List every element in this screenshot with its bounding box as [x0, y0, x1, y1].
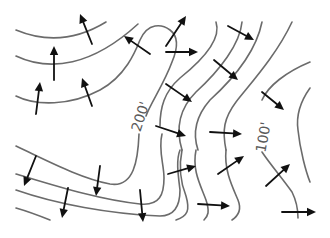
contour-line	[195, 22, 262, 150]
contour-line	[195, 150, 208, 220]
flow-arrow-icon	[218, 156, 244, 174]
flow-arrow-icon	[198, 201, 230, 209]
contour-line	[298, 88, 311, 182]
flow-arrow-icon	[156, 126, 186, 137]
contour-line	[262, 62, 310, 100]
elevation-label-200: 200'	[128, 99, 153, 133]
flow-arrow-icon	[138, 190, 146, 222]
flow-arrow-icon	[23, 156, 36, 186]
contour-line	[16, 134, 164, 204]
flow-arrow-icon	[282, 208, 316, 216]
flow-arrow-icon	[124, 36, 150, 54]
contour-line	[16, 24, 138, 64]
flow-arrow-icon	[262, 92, 284, 110]
contour-line	[16, 22, 106, 38]
contour-line	[16, 208, 50, 220]
flow-arrow-icon	[166, 48, 198, 56]
flow-arrow-icon	[210, 129, 242, 137]
flow-arrow-icon	[81, 78, 92, 106]
elevation-labels: 200' 100'	[128, 99, 274, 153]
flow-arrow-icon	[50, 46, 58, 80]
contour-lines	[16, 22, 310, 220]
flow-arrow-icon	[79, 14, 92, 44]
flow-arrow-icon	[266, 164, 290, 186]
flow-arrow-icon	[168, 164, 196, 174]
contour-line	[160, 22, 217, 126]
contour-map: 200' 100'	[0, 0, 330, 238]
flow-arrows	[23, 14, 316, 222]
flow-arrow-icon	[35, 82, 43, 114]
flow-arrow-icon	[166, 84, 192, 102]
contour-line	[179, 22, 242, 150]
contour-line	[16, 26, 176, 116]
elevation-label-100: 100'	[253, 121, 274, 154]
